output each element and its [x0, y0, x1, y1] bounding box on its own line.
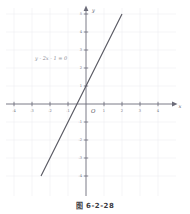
- x-tick-label: -3: [30, 109, 34, 113]
- x-tick-label: -2: [48, 109, 52, 113]
- y-tick-label: 4: [80, 30, 83, 34]
- y-tick-labels: 5 4 3 2 1 -1 -2 -3 -4: [78, 12, 82, 178]
- y-tick-label: 3: [80, 48, 83, 52]
- y-axis-name: y: [91, 7, 95, 14]
- x-tick-label: 1: [103, 109, 105, 113]
- y-axis: [84, 6, 89, 197]
- figure-container: -4 -3 -2 -1 1 2 3 4 5 4 3 2 1 -1 -2 -3 -…: [0, 0, 190, 214]
- x-tick-label: -1: [66, 109, 70, 113]
- line-graph-y-equals-2x-plus-1: [41, 14, 122, 176]
- y-tick-label: 1: [80, 84, 82, 88]
- y-tick-label: 2: [80, 66, 82, 70]
- horizontal-gridlines: [6, 14, 176, 176]
- figure-caption: 图 6-2-28: [0, 200, 190, 210]
- x-tick-label: 4: [157, 109, 160, 113]
- x-tick-label: 2: [121, 109, 123, 113]
- x-tick-label: -4: [12, 109, 16, 113]
- coordinate-plane-graph: -4 -3 -2 -1 1 2 3 4 5 4 3 2 1 -1 -2 -3 -…: [0, 0, 190, 214]
- x-axis-name: x: [179, 103, 182, 109]
- y-tick-label: -2: [78, 138, 82, 142]
- origin-label: O: [91, 108, 96, 114]
- y-tick-label: -3: [78, 156, 82, 160]
- y-tick-label: 5: [80, 12, 83, 16]
- x-tick-label: 3: [139, 109, 142, 113]
- y-tick-label: -4: [78, 174, 82, 178]
- equation-annotation: y - 2x - 1 = 0: [34, 55, 68, 62]
- y-tick-label: -1: [78, 120, 82, 124]
